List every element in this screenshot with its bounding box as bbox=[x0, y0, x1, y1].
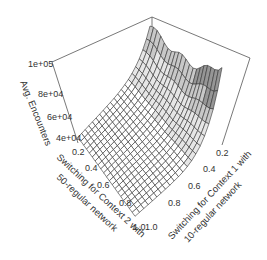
x-tick: 0.4 bbox=[85, 163, 98, 173]
x-tick: 0.2 bbox=[72, 147, 85, 157]
y-tick: 1.0 bbox=[145, 222, 158, 232]
y-tick: 0.6 bbox=[188, 181, 201, 191]
y-tick: 0.2 bbox=[216, 148, 229, 158]
z-tick: 4e+04 bbox=[56, 133, 81, 143]
z-axis: 1e+05 8e+04 6e+04 4e+04 Avg. Encounters bbox=[18, 59, 81, 147]
y-tick: 0.4 bbox=[203, 164, 216, 174]
y-tick: 0.8 bbox=[168, 198, 181, 208]
z-tick: 1e+05 bbox=[28, 59, 53, 69]
z-tick: 6e+04 bbox=[47, 112, 72, 122]
surface-plot: 1e+05 8e+04 6e+04 4e+04 Avg. Encounters … bbox=[0, 0, 267, 260]
z-tick: 8e+04 bbox=[38, 89, 63, 99]
